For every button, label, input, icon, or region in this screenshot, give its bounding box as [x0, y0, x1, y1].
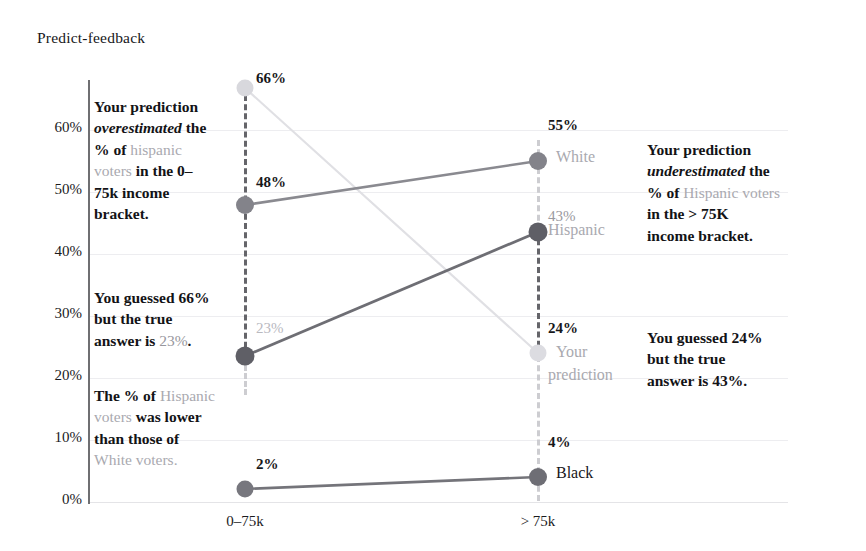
annotation-right-bottom-line3: answer is 43%. — [647, 370, 847, 391]
annotation-right-top-line5: income bracket. — [647, 225, 847, 246]
annotation-right-bottom-l3: answer is 43%. — [647, 372, 747, 389]
annotation-left-top-l2b: the — [182, 119, 207, 136]
annotation-left-top-l4a: voters — [94, 162, 132, 179]
line-black — [245, 477, 538, 489]
annotation-right-top-l3b: Hispanic voters — [683, 184, 780, 201]
annotation-left-top: Your prediction overestimated the % of h… — [94, 96, 246, 224]
series-label-prediction-line2: prediction — [548, 366, 613, 384]
annotation-right-top-l3a: % of — [647, 184, 683, 201]
annotation-right-top-line1: Your prediction — [647, 139, 847, 160]
annotation-right-top-line4: in the > 75K — [647, 203, 847, 224]
annotation-left-middle: You guessed 66% but the true answer is 2… — [94, 287, 249, 351]
annotation-left-bottom-l1b: Hispanic — [160, 387, 215, 404]
annotation-left-top-l3b: hispanic — [130, 141, 182, 158]
point-white-right[interactable] — [529, 152, 547, 170]
annotation-left-top-line3: % of hispanic — [94, 139, 246, 160]
annotation-left-top-line5: 75k income — [94, 182, 246, 203]
point-hispanic-right[interactable] — [529, 223, 548, 242]
series-label-white: White — [556, 148, 595, 166]
annotation-left-middle-line3: answer is 23%. — [94, 330, 249, 351]
series-label-black: Black — [556, 464, 593, 482]
point-black-left[interactable] — [237, 481, 254, 498]
annotation-left-middle-line1: You guessed 66% — [94, 287, 249, 308]
annotation-left-bottom-l2b: was lower — [132, 408, 202, 425]
annotation-right-top-line2: underestimated the — [647, 160, 847, 181]
annotation-right-top: Your prediction underestimated the % of … — [647, 139, 847, 246]
annotation-right-top-line3: % of Hispanic voters — [647, 182, 847, 203]
annotation-left-bottom-l4b: voters. — [132, 451, 178, 468]
annotation-left-top-line1: Your prediction — [94, 96, 246, 117]
annotation-left-bottom-line1: The % of Hispanic — [94, 385, 254, 406]
value-label-white-right: 55% — [548, 117, 578, 134]
annotation-left-top-line4: voters in the 0– — [94, 160, 246, 181]
annotation-left-middle-l3c: . — [188, 332, 192, 349]
annotation-right-top-l5: income bracket. — [647, 227, 753, 244]
value-label-prediction-right: 24% — [548, 320, 578, 337]
annotation-left-middle-l2: but the true — [94, 310, 172, 327]
annotation-left-bottom-l2a: voters — [94, 408, 132, 425]
point-your-prediction-left[interactable] — [237, 80, 254, 97]
annotation-right-top-l2a: underestimated — [647, 162, 745, 179]
annotation-left-top-l3a: % of — [94, 141, 130, 158]
annotation-right-top-l4: in the > 75K — [647, 205, 729, 222]
annotation-left-bottom-l1a: The % of — [94, 387, 160, 404]
line-white — [245, 161, 538, 205]
annotation-right-bottom-line2: but the true — [647, 348, 847, 369]
annotation-left-middle-l3a: answer is — [94, 332, 159, 349]
annotation-right-bottom-l2: but the true — [647, 350, 725, 367]
annotation-left-top-line2: overestimated the — [94, 117, 246, 138]
annotation-left-top-l4b: in the 0– — [132, 162, 193, 179]
series-label-prediction-line1: Your — [556, 343, 587, 361]
chart-canvas: Predict-feedback 60% 50% 40% 30% 20% 10%… — [0, 0, 866, 551]
value-label-prediction-left: 66% — [256, 70, 286, 87]
annotation-left-top-l5: 75k income — [94, 184, 169, 201]
annotation-left-top-l6: bracket. — [94, 205, 149, 222]
value-label-white-left: 48% — [256, 174, 286, 191]
annotation-left-bottom-l4a: White — [94, 451, 132, 468]
annotation-left-bottom-line3: than those of — [94, 428, 254, 449]
line-hispanic — [245, 232, 538, 356]
annotation-left-middle-l3b: 23% — [159, 332, 187, 349]
annotation-left-top-l1a: Your prediction — [94, 98, 198, 115]
point-your-prediction-right[interactable] — [530, 345, 547, 362]
value-label-black-right: 4% — [548, 434, 571, 451]
annotation-left-bottom-line2: voters was lower — [94, 406, 254, 427]
annotation-left-bottom: The % of Hispanic voters was lower than … — [94, 385, 254, 471]
x-tick-0-75k: 0–75k — [226, 513, 264, 530]
annotation-left-middle-line2: but the true — [94, 308, 249, 329]
value-label-black-left: 2% — [256, 456, 279, 473]
annotation-right-top-l1: Your prediction — [647, 141, 751, 158]
annotation-left-bottom-l3: than those of — [94, 430, 179, 447]
line-your-prediction — [245, 88, 538, 353]
annotation-left-bottom-line4: White voters. — [94, 449, 254, 470]
annotation-right-bottom-l1: You guessed 24% — [647, 329, 762, 346]
x-tick-over-75k: > 75k — [521, 513, 556, 530]
value-label-hispanic-left: 23% — [256, 320, 284, 337]
annotation-left-top-l2a: overestimated — [94, 119, 182, 136]
annotation-right-bottom-line1: You guessed 24% — [647, 327, 847, 348]
annotation-right-top-l2b: the — [745, 162, 770, 179]
point-black-right[interactable] — [529, 468, 547, 486]
series-label-hispanic: Hispanic — [548, 221, 605, 239]
annotation-right-bottom: You guessed 24% but the true answer is 4… — [647, 327, 847, 391]
annotation-left-top-line6: bracket. — [94, 203, 246, 224]
annotation-left-middle-l1: You guessed 66% — [94, 289, 209, 306]
